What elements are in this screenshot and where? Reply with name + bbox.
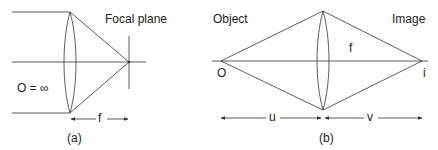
caption-a: (a) xyxy=(67,131,82,145)
object-distance-label: u xyxy=(269,110,276,124)
diagram-b xyxy=(212,11,428,118)
object-point-label: O xyxy=(217,66,226,80)
image-distance-label: v xyxy=(367,110,373,124)
focal-length-label-b: f xyxy=(349,41,352,55)
focal-point xyxy=(128,61,130,63)
image-point-label: i xyxy=(423,66,426,80)
lens-b xyxy=(317,11,329,110)
lens-a xyxy=(64,12,76,113)
image-label: Image xyxy=(392,12,425,26)
diagram-a xyxy=(12,12,146,119)
focal-plane-label: Focal plane xyxy=(105,12,167,26)
caption-b: (b) xyxy=(319,131,334,145)
object-at-infinity-label: O = ∞ xyxy=(17,81,49,95)
object-label: Object xyxy=(213,12,248,26)
ray-object-bottom xyxy=(221,61,323,110)
focal-length-label-a: f xyxy=(98,111,101,125)
converging-ray-bottom xyxy=(70,62,129,113)
ray-image-bottom xyxy=(323,61,422,110)
